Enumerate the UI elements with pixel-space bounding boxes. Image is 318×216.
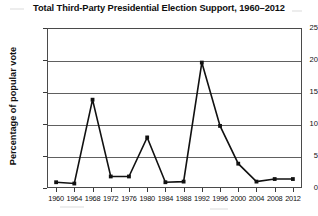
y-axis-title: Percentage of popular vote xyxy=(8,31,18,181)
x-tick-mark xyxy=(275,188,276,192)
x-tick-mark xyxy=(111,188,112,192)
x-tick-mark xyxy=(129,188,130,192)
scan-speck xyxy=(60,206,84,208)
data-point-marker xyxy=(182,180,186,184)
scan-speck xyxy=(10,8,24,10)
chart-figure: Total Third-Party Presidential Election … xyxy=(0,0,318,216)
x-tick-mark xyxy=(202,188,203,192)
chart-title: Total Third-Party Presidential Election … xyxy=(0,3,318,13)
data-point-marker xyxy=(163,180,167,184)
scan-speck xyxy=(210,208,228,210)
x-tick-mark xyxy=(56,188,57,192)
data-point-marker xyxy=(255,180,259,184)
data-point-marker xyxy=(236,162,240,166)
series-markers xyxy=(54,61,295,186)
x-tick-mark xyxy=(74,188,75,192)
data-point-marker xyxy=(291,177,295,181)
data-point-marker xyxy=(109,175,113,179)
data-point-marker xyxy=(54,180,58,184)
data-point-marker xyxy=(127,175,131,179)
x-tick-mark xyxy=(256,188,257,192)
y-tick-mark xyxy=(43,188,47,189)
series-polyline xyxy=(56,63,293,184)
data-point-marker xyxy=(145,136,149,140)
data-point-marker xyxy=(200,61,204,65)
x-tick-mark xyxy=(184,188,185,192)
data-series-line xyxy=(47,28,302,188)
x-tick-label: 2012 xyxy=(282,194,304,203)
data-point-marker xyxy=(72,182,76,186)
data-point-marker xyxy=(218,124,222,128)
x-tick-mark xyxy=(238,188,239,192)
data-point-marker xyxy=(273,177,277,181)
scan-speck xyxy=(292,10,302,12)
x-tick-mark xyxy=(147,188,148,192)
data-point-marker xyxy=(91,98,95,102)
x-tick-mark xyxy=(293,188,294,192)
x-tick-mark xyxy=(93,188,94,192)
x-tick-mark xyxy=(165,188,166,192)
x-tick-mark xyxy=(220,188,221,192)
